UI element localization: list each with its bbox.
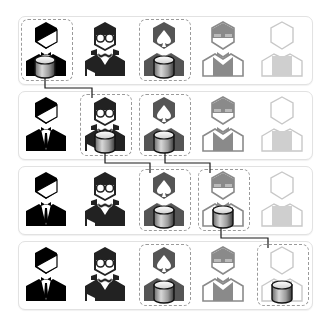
database-icon bbox=[93, 130, 117, 154]
connector-r1c1-to-r2c2 bbox=[45, 78, 92, 98]
database-icon bbox=[33, 55, 57, 79]
database-icon bbox=[152, 130, 176, 154]
connector-r2c3-to-r3c4 bbox=[165, 153, 210, 173]
connector-r2c2-to-r3c3 bbox=[105, 153, 150, 173]
database-icon bbox=[211, 205, 235, 229]
connector-r3c4-to-r4c5 bbox=[221, 228, 268, 248]
database-icon bbox=[152, 280, 176, 304]
database-icon bbox=[270, 280, 294, 304]
database-icon bbox=[152, 205, 176, 229]
connector-lines bbox=[0, 0, 330, 326]
database-icon bbox=[152, 55, 176, 79]
